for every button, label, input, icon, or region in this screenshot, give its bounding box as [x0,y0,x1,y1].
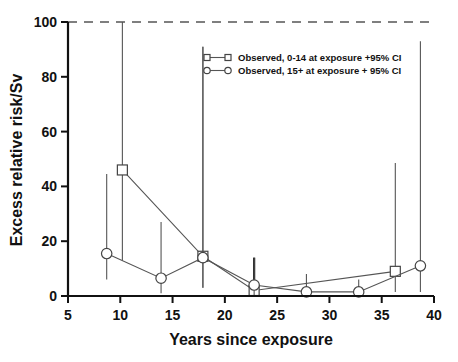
data-point-circle [249,280,259,290]
x-tick-label-40: 40 [426,307,442,323]
legend-marker-circle-icon [204,67,210,73]
y-axis-title: Excess relative risk/Sv [8,74,25,247]
x-tick-label-15: 15 [165,307,181,323]
y-tick-label-20: 20 [41,233,57,249]
x-tick-label-35: 35 [374,307,390,323]
data-point-circle [415,261,425,271]
data-point-circle [101,248,111,258]
y-tick-label-0: 0 [49,288,57,304]
y-tick-label-100: 100 [34,14,58,30]
legend-marker-circle-icon-2 [225,67,231,73]
legend-label-1: Observed, 15+ at exposure + 95% CI [238,65,401,76]
x-tick-label-30: 30 [322,307,338,323]
legend-label-0: Observed, 0-14 at exposure +95% CI [238,52,401,63]
x-tick-label-10: 10 [112,307,128,323]
data-point-circle [198,252,208,262]
x-axis-title: Years since exposure [169,331,333,348]
chart-figure: 020406080100 510152025303540 Excess rela… [0,0,458,362]
x-tick-label-25: 25 [269,307,285,323]
x-tick-label-20: 20 [217,307,233,323]
legend-marker-square-icon [204,55,210,61]
data-point-circle [156,273,166,283]
data-point-square [117,165,127,175]
legend-marker-square-icon-2 [225,55,231,61]
y-tick-label-80: 80 [41,69,57,85]
chart-canvas: 020406080100 510152025303540 Excess rela… [0,0,458,362]
y-tick-label-40: 40 [41,178,57,194]
x-tick-label-5: 5 [64,307,72,323]
y-tick-label-60: 60 [41,124,57,140]
